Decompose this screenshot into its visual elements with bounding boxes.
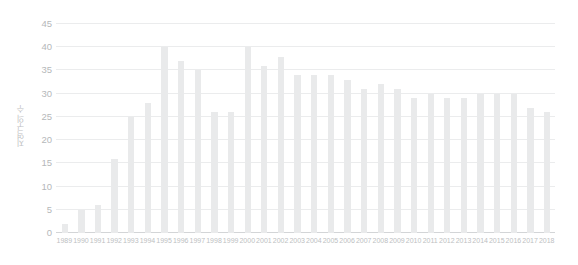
bar [461,98,467,233]
bar-slot [123,24,140,233]
x-axis-tick-label: 2007 [355,236,372,245]
bar [328,75,334,233]
x-axis-tick-label: 2012 [439,236,456,245]
x-axis-tick-label: 2003 [289,236,306,245]
x-axis-tick-label: 1994 [139,236,156,245]
bar-slot [389,24,406,233]
bar-slot [239,24,256,233]
x-axis-tick-label: 2016 [505,236,522,245]
bar-slot [405,24,422,233]
bar-slot [89,24,106,233]
bar-slot [222,24,239,233]
bar-slot [505,24,522,233]
y-axis-tick-labels: 051015202530354045 [30,0,52,265]
y-axis-tick-label: 35 [41,65,52,75]
x-axis-tick-label: 2018 [538,236,555,245]
bar [145,103,151,233]
bar-series [56,24,555,233]
bar [245,47,251,233]
bar [228,112,234,233]
y-axis-title: 지역구의 수 [16,86,30,166]
x-axis-tick-label: 2015 [488,236,505,245]
x-axis-tick-label: 1993 [123,236,140,245]
bar [211,112,217,233]
bar [195,70,201,233]
bar [78,210,84,233]
x-axis-tick-labels: 1989199019911992199319941995199619971998… [56,236,555,250]
x-axis-tick-label: 2001 [256,236,273,245]
y-axis-tick-label: 10 [41,182,52,192]
bar [95,205,101,233]
bar-slot [538,24,555,233]
bar-slot [106,24,123,233]
bar [394,89,400,233]
bar [361,89,367,233]
bar [494,94,500,233]
bar [128,117,134,233]
y-axis-tick-label: 5 [47,205,52,215]
plot-area [56,24,555,233]
bar [527,108,533,233]
bar [344,80,350,233]
y-axis-tick-label: 30 [41,89,52,99]
y-axis-tick-label: 45 [41,19,52,29]
bar [444,98,450,233]
y-axis-tick-label: 0 [47,228,52,238]
bar-slot [156,24,173,233]
bar [311,75,317,233]
x-axis-tick-label: 2010 [405,236,422,245]
bar-slot [289,24,306,233]
bar-slot [56,24,73,233]
x-axis-tick-label: 2006 [339,236,356,245]
bar [411,98,417,233]
bar-slot [422,24,439,233]
x-axis-tick-label: 1992 [106,236,123,245]
bar-chart: 지역구의 수 051015202530354045 19891990199119… [0,0,578,265]
x-axis-tick-label: 2002 [272,236,289,245]
bar [378,84,384,233]
x-axis-tick-label: 2005 [322,236,339,245]
y-axis-tick-label: 25 [41,112,52,122]
x-axis-tick-label: 2013 [455,236,472,245]
y-axis-tick-label: 40 [41,42,52,52]
bar [278,57,284,233]
x-axis-tick-label: 2004 [306,236,323,245]
x-axis-tick-label: 1995 [156,236,173,245]
x-axis-tick-label: 1998 [206,236,223,245]
bar-slot [206,24,223,233]
bar [62,224,68,233]
bar-slot [322,24,339,233]
bar-slot [455,24,472,233]
x-axis-tick-label: 2008 [372,236,389,245]
bar [111,159,117,233]
x-axis-tick-label: 2017 [522,236,539,245]
bar-slot [256,24,273,233]
bar [294,75,300,233]
bar [428,94,434,233]
x-axis-tick-label: 2000 [239,236,256,245]
x-axis-tick-label: 1999 [222,236,239,245]
x-axis-tick-label: 1990 [73,236,90,245]
bar-slot [172,24,189,233]
bar-slot [372,24,389,233]
bar [261,66,267,233]
bar-slot [522,24,539,233]
x-axis-tick-label: 1989 [56,236,73,245]
bar [477,94,483,233]
bar-slot [355,24,372,233]
x-axis-tick-label: 1996 [172,236,189,245]
bar [178,61,184,233]
bar-slot [139,24,156,233]
y-axis-tick-label: 20 [41,135,52,145]
bar-slot [73,24,90,233]
bar-slot [439,24,456,233]
bar-slot [472,24,489,233]
y-axis-tick-label: 15 [41,158,52,168]
x-axis-tick-label: 2014 [472,236,489,245]
bar-slot [488,24,505,233]
bar [544,112,550,233]
bar-slot [339,24,356,233]
x-axis-tick-label: 2011 [422,236,439,245]
bar [511,94,517,233]
x-axis-tick-label: 1991 [89,236,106,245]
